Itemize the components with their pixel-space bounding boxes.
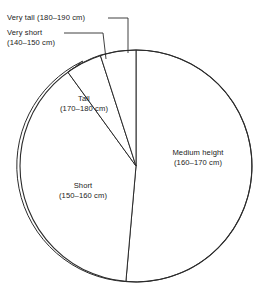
label-tall-line1: Tall [78, 94, 90, 103]
label-medium-height-line2: (160–170 cm) [152, 158, 244, 168]
label-tall-line2: (170–180 cm) [52, 104, 116, 114]
leader-line-very-tall [108, 18, 128, 53]
label-short: Short (150–160 cm) [42, 181, 124, 200]
label-medium-height-line1: Medium height [172, 148, 223, 157]
pie-chart: Very tall (180–190 cm) Very short (140–1… [0, 0, 273, 308]
label-very-tall: Very tall (180–190 cm) [7, 13, 85, 23]
label-short-line2: (150–160 cm) [42, 191, 124, 201]
label-very-short: Very short (140–150 cm) [7, 28, 55, 47]
label-very-tall-line1: Very tall (180–190 cm) [7, 13, 85, 22]
label-tall: Tall (170–180 cm) [52, 94, 116, 113]
label-short-line1: Short [74, 181, 93, 190]
label-medium-height: Medium height (160–170 cm) [152, 148, 244, 167]
label-very-short-line1: Very short [7, 28, 42, 37]
label-very-short-line2: (140–150 cm) [7, 38, 55, 48]
